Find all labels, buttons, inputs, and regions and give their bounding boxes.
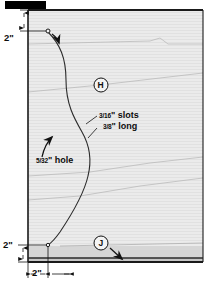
marker-j-label: J bbox=[99, 239, 104, 248]
dimension-label-bottom-left: 2" bbox=[3, 240, 13, 250]
drawing-svg bbox=[0, 0, 208, 288]
dimension-label-bottom-horizontal: 2" bbox=[32, 268, 42, 278]
slots-length-numerator: 3 bbox=[103, 123, 106, 130]
dimension-label-top-left: 2" bbox=[4, 33, 14, 43]
black-title-bar bbox=[5, 1, 46, 9]
slots-numerator: 3 bbox=[99, 112, 102, 119]
hole-numerator: 5 bbox=[36, 157, 39, 164]
callout-slots-line2: 3/8" long bbox=[103, 122, 137, 131]
pivot-hole-top-icon bbox=[46, 29, 50, 33]
technical-drawing-canvas: 2" 2" 2" 3/16" slots 3/8" long 5/32" hol… bbox=[0, 0, 208, 288]
wood-panel bbox=[28, 10, 203, 262]
slots-denominator: 16 bbox=[104, 112, 111, 119]
hole-text: " hole bbox=[48, 155, 73, 165]
callout-slots-line1: 3/16" slots bbox=[99, 111, 139, 120]
slots-line2-text: " long bbox=[111, 121, 137, 131]
pivot-hole-bottom-icon bbox=[46, 243, 49, 246]
callout-hole: 5/32" hole bbox=[36, 156, 73, 165]
marker-h-label: H bbox=[98, 81, 104, 90]
hole-denominator: 32 bbox=[41, 157, 48, 164]
slots-length-denominator: 8 bbox=[108, 123, 111, 130]
slots-line1-text: " slots bbox=[111, 110, 139, 120]
